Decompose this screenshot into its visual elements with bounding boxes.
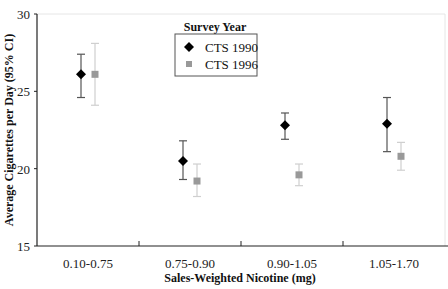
- data-point-diamond: [382, 119, 392, 129]
- data-point-square: [92, 71, 99, 78]
- y-tick-label: 20: [17, 162, 30, 177]
- data-point-square: [296, 171, 303, 178]
- x-tick-label: 0.90-1.05: [267, 256, 317, 271]
- x-axis-title: Sales-Weighted Nicotine (mg): [164, 271, 315, 285]
- y-tick-label: 15: [17, 239, 30, 254]
- legend-title: Survey Year: [184, 20, 247, 34]
- legend-label: CTS 1996: [205, 57, 259, 72]
- legend: Survey Year CTS 1990CTS 1996: [175, 20, 259, 76]
- chart: 15202530 0.10-0.750.75-0.900.90-1.051.05…: [0, 0, 448, 289]
- y-axis-title: Average Cigarettes per Day (95% CI): [2, 34, 16, 226]
- data-point-diamond: [178, 156, 188, 166]
- x-tick-label: 0.75-0.90: [165, 256, 215, 271]
- x-axis: 0.10-0.750.75-0.900.90-1.051.05-1.70: [37, 241, 448, 271]
- data-point-diamond: [76, 69, 86, 79]
- legend-square-icon: [186, 61, 192, 67]
- y-tick-label: 25: [17, 84, 30, 99]
- legend-label: CTS 1990: [205, 40, 258, 55]
- x-tick-label: 1.05-1.70: [369, 256, 419, 271]
- x-tick-label: 0.10-0.75: [63, 256, 113, 271]
- y-axis: 15202530: [17, 7, 37, 254]
- y-tick-label: 30: [17, 7, 30, 22]
- data-point-square: [398, 153, 405, 160]
- data-point-square: [194, 178, 201, 185]
- data-point-diamond: [280, 120, 290, 130]
